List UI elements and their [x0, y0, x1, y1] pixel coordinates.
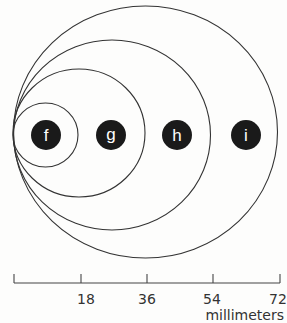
label-dots: f g h i — [31, 120, 261, 150]
label-f: f — [44, 126, 49, 145]
concentric-circles-diagram: f g h i 18 36 54 72 millimeters — [0, 0, 287, 323]
label-i: i — [244, 126, 248, 145]
scale-bar — [14, 274, 280, 283]
tick-18: 18 — [77, 291, 95, 307]
tick-54: 54 — [203, 291, 221, 307]
tick-72: 72 — [269, 291, 287, 307]
tick-36: 36 — [138, 291, 156, 307]
label-g: g — [106, 125, 115, 144]
unit-label: millimeters — [205, 307, 284, 323]
label-h: h — [172, 126, 181, 145]
